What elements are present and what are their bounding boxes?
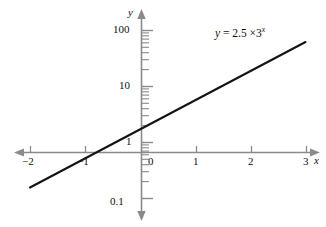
plot-canvas xyxy=(0,0,326,227)
data-series-line xyxy=(30,42,306,188)
exponential-log-plot-figure: y x 100 10 1 0.1 −2 −1 0 1 2 3 y = 2.5 ×… xyxy=(0,0,326,227)
x-tick-label-3: 3 xyxy=(303,156,309,167)
y-axis-down-arrow-icon xyxy=(137,211,145,221)
equation-annotation: y = 2.5 ×3x xyxy=(215,28,265,40)
x-tick-label-1: 1 xyxy=(193,156,199,167)
y-tick-label-100: 100 xyxy=(113,24,130,35)
x-axis-ticks xyxy=(31,146,307,153)
x-tick-label-minus-2: −2 xyxy=(22,156,34,167)
equation-lhs: y xyxy=(215,27,220,39)
y-tick-label-0.1: 0.1 xyxy=(110,196,124,207)
y-tick-label-10: 10 xyxy=(119,80,130,91)
y-axis-label: y xyxy=(128,7,133,18)
y-tick-label-1: 1 xyxy=(126,136,132,147)
equation-equals: = xyxy=(223,27,230,39)
x-tick-label-minus-1: −1 xyxy=(77,156,89,167)
equation-coefficient: 2.5 xyxy=(232,27,246,39)
x-axis-label: x xyxy=(314,155,319,166)
x-tick-label-0: 0 xyxy=(148,156,154,167)
equation-exponent: x xyxy=(262,25,265,34)
x-tick-label-2: 2 xyxy=(248,156,254,167)
y-axis-major-ticks xyxy=(142,31,154,199)
y-axis-up-arrow-icon xyxy=(137,9,145,19)
